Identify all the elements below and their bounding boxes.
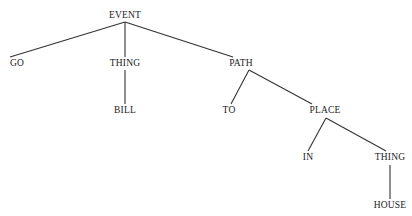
node-to: TO (223, 106, 236, 116)
node-bill: BILL (114, 106, 136, 116)
node-thing: THING (110, 59, 141, 69)
node-in: IN (303, 153, 313, 163)
node-path: PATH (229, 59, 253, 69)
edge-path-place (249, 70, 312, 104)
edge-path-to (231, 70, 249, 104)
node-go: GO (10, 59, 24, 69)
node-place: PLACE (309, 106, 340, 116)
node-event: EVENT (109, 11, 141, 21)
edge-event-path (125, 22, 233, 57)
node-thing-2: THING (375, 153, 406, 163)
edge-place-in (308, 118, 326, 151)
edge-event-go (10, 22, 125, 57)
edge-place-thing (326, 118, 386, 151)
tree-edges (0, 0, 412, 216)
node-house: HOUSE (374, 201, 407, 211)
